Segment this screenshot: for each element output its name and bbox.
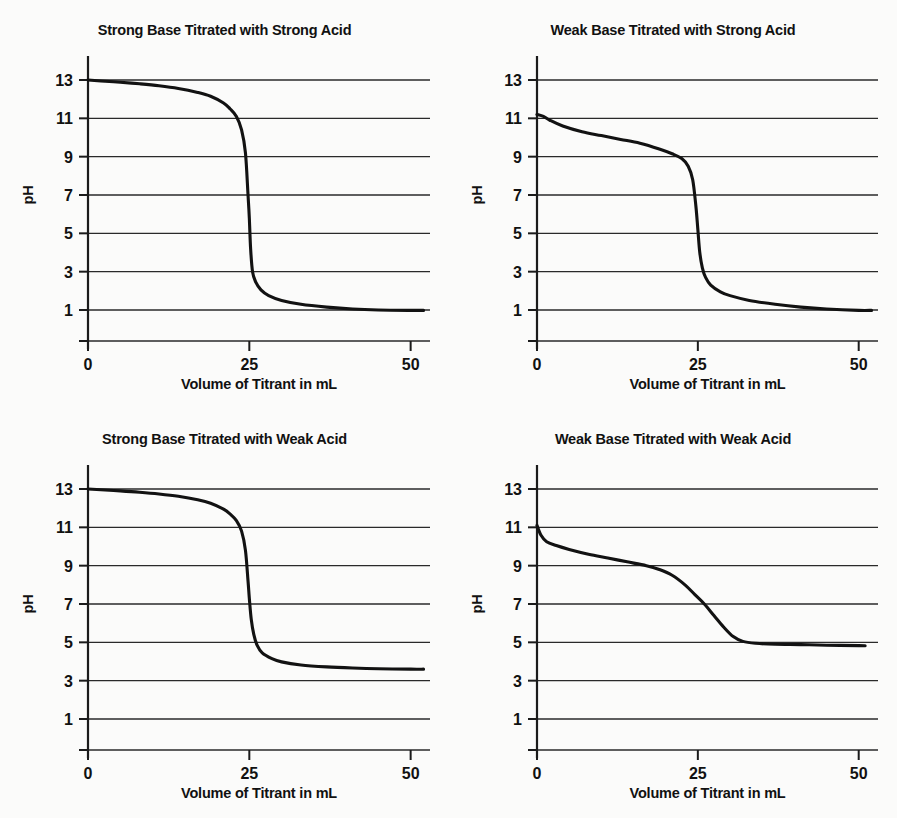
x-tick-label: 0 <box>84 765 93 782</box>
chart-title: Weak Base Titrated with Strong Acid <box>551 22 796 38</box>
y-tick-label: 13 <box>504 72 522 89</box>
y-axis-label: pH <box>469 186 485 205</box>
chart-svg-weak-base-strong-acid: Weak Base Titrated with Strong Acid13579… <box>449 0 897 409</box>
y-tick-label: 11 <box>56 110 73 127</box>
x-tick-label: 25 <box>689 765 707 782</box>
y-tick-label: 7 <box>513 187 522 204</box>
y-tick-label: 1 <box>64 302 73 319</box>
y-tick-label: 9 <box>513 149 522 166</box>
chart-title: Strong Base Titrated with Strong Acid <box>98 22 352 38</box>
y-tick-label: 9 <box>513 558 522 575</box>
y-tick-label: 3 <box>64 264 73 281</box>
y-tick-label: 11 <box>505 519 522 536</box>
y-axis-label: pH <box>20 595 36 614</box>
x-axis-label: Volume of Titrant in mL <box>181 376 337 392</box>
x-tick-label: 50 <box>850 765 868 782</box>
x-axis-label: Volume of Titrant in mL <box>181 785 337 801</box>
y-tick-label: 13 <box>55 481 73 498</box>
x-axis-label: Volume of Titrant in mL <box>630 785 786 801</box>
x-tick-label: 50 <box>402 356 420 373</box>
y-tick-label: 1 <box>64 711 73 728</box>
y-tick-label: 7 <box>64 596 73 613</box>
chart-panel-strong-base-weak-acid: Strong Base Titrated with Weak Acid13579… <box>0 409 449 818</box>
y-tick-label: 5 <box>64 225 73 242</box>
y-tick-label: 5 <box>513 634 522 651</box>
x-tick-label: 0 <box>533 356 542 373</box>
x-tick-label: 25 <box>240 356 258 373</box>
y-tick-label: 9 <box>64 149 73 166</box>
chart-panel-weak-base-weak-acid: Weak Base Titrated with Weak Acid1357911… <box>449 409 897 818</box>
chart-title: Strong Base Titrated with Weak Acid <box>102 431 347 447</box>
titration-curve <box>537 115 872 311</box>
x-axis-label: Volume of Titrant in mL <box>630 376 786 392</box>
chart-svg-strong-base-weak-acid: Strong Base Titrated with Weak Acid13579… <box>0 409 449 818</box>
y-tick-label: 3 <box>64 673 73 690</box>
y-tick-label: 13 <box>55 72 73 89</box>
x-tick-label: 0 <box>84 356 93 373</box>
x-tick-label: 50 <box>402 765 420 782</box>
y-axis-label: pH <box>20 186 36 205</box>
chart-panel-weak-base-strong-acid: Weak Base Titrated with Strong Acid13579… <box>449 0 897 409</box>
y-tick-label: 3 <box>513 264 522 281</box>
y-tick-label: 1 <box>513 711 522 728</box>
y-tick-label: 5 <box>513 225 522 242</box>
titration-curve <box>537 525 865 645</box>
chart-svg-strong-base-strong-acid: Strong Base Titrated with Strong Acid135… <box>0 0 449 409</box>
y-tick-label: 3 <box>513 673 522 690</box>
chart-svg-weak-base-weak-acid: Weak Base Titrated with Weak Acid1357911… <box>449 409 897 818</box>
y-tick-label: 7 <box>513 596 522 613</box>
y-tick-label: 13 <box>504 481 522 498</box>
chart-title: Weak Base Titrated with Weak Acid <box>555 431 791 447</box>
titration-figure-grid: Strong Base Titrated with Strong Acid135… <box>0 0 897 818</box>
y-tick-label: 11 <box>505 110 522 127</box>
y-tick-label: 5 <box>64 634 73 651</box>
chart-panel-strong-base-strong-acid: Strong Base Titrated with Strong Acid135… <box>0 0 449 409</box>
y-tick-label: 9 <box>64 558 73 575</box>
y-axis-label: pH <box>469 595 485 614</box>
x-tick-label: 25 <box>689 356 707 373</box>
y-tick-label: 1 <box>513 302 522 319</box>
y-tick-label: 11 <box>56 519 73 536</box>
y-tick-label: 7 <box>64 187 73 204</box>
x-tick-label: 25 <box>240 765 258 782</box>
x-tick-label: 50 <box>850 356 868 373</box>
x-tick-label: 0 <box>533 765 542 782</box>
